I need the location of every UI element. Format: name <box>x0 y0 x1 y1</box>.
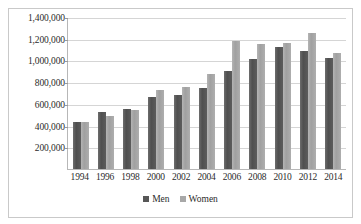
bar-men-2006[interactable] <box>224 71 232 169</box>
bar-group <box>220 18 245 169</box>
bar-men-2002[interactable] <box>174 95 182 169</box>
bar-men-2000[interactable] <box>148 97 156 169</box>
bar-women-1994[interactable] <box>81 122 89 169</box>
legend-label: Men <box>152 194 169 204</box>
y-axis-tick-label: 200,000 <box>35 143 65 153</box>
legend-entry-men[interactable]: Men <box>143 194 169 204</box>
bar-women-1996[interactable] <box>106 116 114 169</box>
bar-women-1998[interactable] <box>131 110 139 169</box>
bar-men-1996[interactable] <box>98 112 106 169</box>
bar-men-2004[interactable] <box>199 88 207 169</box>
bar-women-2014[interactable] <box>333 53 341 169</box>
bar-group <box>169 18 194 169</box>
plot-area <box>67 18 346 170</box>
y-axis-tick-label: 1,200,000 <box>28 35 65 45</box>
bar-group <box>321 18 346 169</box>
bar-group <box>194 18 219 169</box>
x-axis-tick-label: 1994 <box>67 172 92 188</box>
x-axis-tick-label: 1998 <box>118 172 143 188</box>
x-axis-tick-label: 2006 <box>219 172 244 188</box>
y-axis-tick-labels: 200,000400,000600,000800,0001,000,0001,2… <box>11 18 65 170</box>
x-axis-tick-label: 2010 <box>270 172 295 188</box>
bar-women-2006[interactable] <box>232 41 240 169</box>
bar-group <box>245 18 270 169</box>
chart-legend: MenWomen <box>9 191 352 207</box>
bar-women-2002[interactable] <box>182 87 190 169</box>
y-axis-tick-label: 400,000 <box>35 122 65 132</box>
x-axis-tick-labels: 1994199619982000200220042006200820102012… <box>67 172 346 188</box>
plot-area-wrapper: 200,000400,000600,000800,0001,000,0001,2… <box>9 9 352 217</box>
x-axis-tick-label: 2004 <box>194 172 219 188</box>
bar-men-2010[interactable] <box>275 47 283 169</box>
bar-men-2008[interactable] <box>249 59 257 169</box>
legend-label: Women <box>189 194 218 204</box>
bar-women-2012[interactable] <box>308 33 316 169</box>
x-axis-tick-label: 1996 <box>92 172 117 188</box>
bar-group <box>270 18 295 169</box>
x-axis-tick-label: 2008 <box>245 172 270 188</box>
bar-group <box>119 18 144 169</box>
bar-group <box>93 18 118 169</box>
chart-border-frame: 200,000400,000600,000800,0001,000,0001,2… <box>8 8 353 218</box>
bar-men-2012[interactable] <box>300 51 308 169</box>
y-axis-tick-label: 1,400,000 <box>28 13 65 23</box>
bar-women-2010[interactable] <box>283 43 291 169</box>
bar-group <box>144 18 169 169</box>
y-axis-tick-label: 600,000 <box>35 100 65 110</box>
x-axis-tick-label: 2002 <box>168 172 193 188</box>
legend-swatch-icon <box>180 196 186 202</box>
y-axis-tick-label: 800,000 <box>35 78 65 88</box>
legend-entry-women[interactable]: Women <box>180 194 218 204</box>
bar-group <box>295 18 320 169</box>
bar-women-2000[interactable] <box>156 90 164 169</box>
x-axis-tick-label: 2000 <box>143 172 168 188</box>
bar-men-1994[interactable] <box>73 122 81 169</box>
bar-women-2004[interactable] <box>207 74 215 169</box>
legend-swatch-icon <box>143 196 149 202</box>
bar-men-1998[interactable] <box>123 109 131 169</box>
bars-layer <box>68 18 346 169</box>
bar-men-2014[interactable] <box>325 58 333 169</box>
x-axis-tick-label: 2014 <box>321 172 346 188</box>
y-axis-tick-label: 1,000,000 <box>28 56 65 66</box>
x-axis-tick-label: 2012 <box>295 172 320 188</box>
bar-group <box>68 18 93 169</box>
bar-women-2008[interactable] <box>257 44 265 169</box>
bar-chart-figure: 200,000400,000600,000800,0001,000,0001,2… <box>0 0 361 224</box>
